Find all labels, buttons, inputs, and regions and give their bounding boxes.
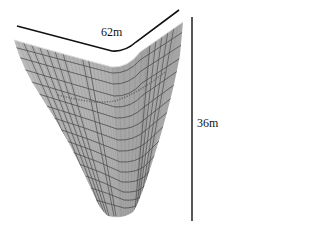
height-dimension-label: 36m xyxy=(197,117,218,129)
width-dimension-label: 62m xyxy=(101,26,122,38)
